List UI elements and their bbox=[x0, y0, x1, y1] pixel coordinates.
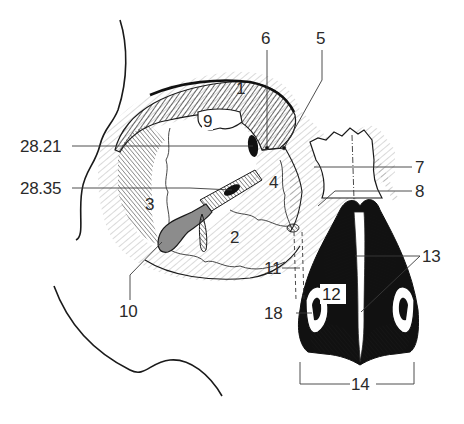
label-14: 14 bbox=[351, 376, 369, 393]
label-6: 6 bbox=[261, 30, 270, 47]
label-1: 1 bbox=[236, 80, 245, 97]
label-28-21: 28.21 bbox=[20, 138, 61, 155]
label-10: 10 bbox=[119, 303, 137, 320]
label-18: 18 bbox=[264, 305, 282, 322]
anatomy-figure bbox=[0, 0, 464, 424]
label-28-35: 28.35 bbox=[20, 180, 61, 197]
label-13: 13 bbox=[422, 248, 440, 265]
label-8: 8 bbox=[415, 183, 424, 200]
label-7: 7 bbox=[415, 159, 424, 176]
label-9: 9 bbox=[202, 113, 213, 130]
label-11: 11 bbox=[264, 260, 281, 277]
label-5: 5 bbox=[316, 30, 325, 47]
label-12: 12 bbox=[322, 286, 340, 303]
label-4: 4 bbox=[269, 174, 278, 191]
label-3: 3 bbox=[145, 196, 154, 213]
label-2: 2 bbox=[230, 229, 239, 246]
